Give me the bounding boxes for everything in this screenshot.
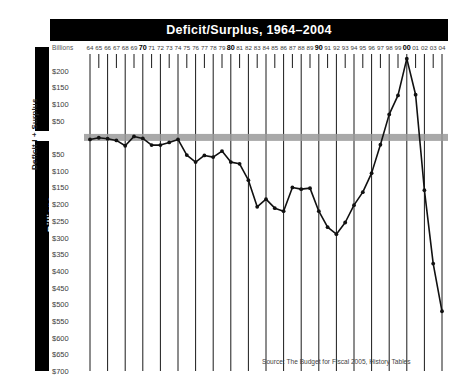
x-axis-tick-labels: 6465666768697071727374757677787980818283… <box>50 43 448 54</box>
y-tick-label-12: $400 <box>52 266 69 275</box>
y-tick-label-9: $250 <box>52 216 69 225</box>
x-tick-label-84: 84 <box>263 44 270 51</box>
x-tick-label-00: 00 <box>403 43 411 52</box>
data-point-93 <box>343 221 347 225</box>
x-tick-label-70: 70 <box>139 43 147 52</box>
data-point-91 <box>326 225 330 229</box>
data-point-77 <box>203 154 207 158</box>
chart-page: Deficit/Surplus, 1964–2004 Billions Defi… <box>0 0 467 387</box>
data-point-72 <box>159 143 163 147</box>
x-tick-label-66: 66 <box>104 44 111 51</box>
data-point-76 <box>194 160 198 164</box>
x-tick-label-99: 99 <box>395 44 402 51</box>
x-tick-label-02: 02 <box>421 44 428 51</box>
data-point-66 <box>106 137 110 141</box>
y-tick-label-13: $450 <box>52 283 69 292</box>
plot-area: Billions 6465666768697071727374757677787… <box>50 43 448 371</box>
x-tick-label-79: 79 <box>219 44 226 51</box>
data-point-90 <box>317 209 321 213</box>
y-tick-label-1: $150 <box>52 83 69 92</box>
x-tick-label-69: 69 <box>131 44 138 51</box>
data-point-04 <box>440 309 444 313</box>
y-tick-label-11: $350 <box>52 250 69 259</box>
gridlines <box>90 54 442 371</box>
y-tick-label-5: $50 <box>52 150 65 159</box>
y-tick-label-8: $200 <box>52 200 69 209</box>
data-point-84 <box>264 197 268 201</box>
x-tick-label-94: 94 <box>351 44 358 51</box>
x-tick-label-77: 77 <box>201 44 208 51</box>
x-tick-label-82: 82 <box>245 44 252 51</box>
data-point-95 <box>361 190 365 194</box>
data-point-97 <box>379 143 383 147</box>
x-tick-label-80: 80 <box>227 43 235 52</box>
x-tick-label-78: 78 <box>210 44 217 51</box>
data-point-01 <box>414 93 418 97</box>
data-point-80 <box>229 160 233 164</box>
x-tick-label-83: 83 <box>254 44 261 51</box>
x-tick-label-74: 74 <box>175 44 182 51</box>
data-point-68 <box>123 144 127 148</box>
y-tick-label-3: $50 <box>52 116 65 125</box>
data-point-65 <box>97 136 101 140</box>
data-point-64 <box>88 138 92 142</box>
x-tick-label-04: 04 <box>439 44 446 51</box>
data-point-85 <box>273 206 277 210</box>
x-tick-label-97: 97 <box>377 44 384 51</box>
data-point-03 <box>431 262 435 266</box>
data-point-69 <box>132 135 136 139</box>
data-point-92 <box>335 232 339 236</box>
y-axis-tick-labels: $200$150$100$50$50$100$150$200$250$300$3… <box>50 54 84 371</box>
data-point-99 <box>396 93 400 97</box>
y-tick-label-16: $600 <box>52 333 69 342</box>
x-tick-label-72: 72 <box>157 44 164 51</box>
y-tick-label-10: $300 <box>52 233 69 242</box>
x-tick-label-75: 75 <box>183 44 190 51</box>
x-tick-label-65: 65 <box>95 44 102 51</box>
data-point-94 <box>352 203 356 207</box>
x-tick-label-92: 92 <box>333 44 340 51</box>
chart-inner <box>84 54 448 371</box>
data-point-88 <box>299 187 303 191</box>
x-tick-label-73: 73 <box>166 44 173 51</box>
data-point-00 <box>405 57 409 61</box>
y-tick-label-18: $700 <box>52 367 69 376</box>
data-point-81 <box>238 162 242 166</box>
x-tick-label-81: 81 <box>236 44 243 51</box>
data-point-70 <box>141 137 145 141</box>
x-tick-label-03: 03 <box>430 44 437 51</box>
page-title: Deficit/Surplus, 1964–2004 <box>166 23 332 37</box>
data-point-89 <box>308 186 312 190</box>
x-tick-label-91: 91 <box>324 44 331 51</box>
x-tick-label-71: 71 <box>148 44 155 51</box>
data-point-02 <box>423 188 427 192</box>
data-point-83 <box>255 205 259 209</box>
chart-svg <box>84 54 448 371</box>
data-point-96 <box>370 171 374 175</box>
x-tick-label-88: 88 <box>298 44 305 51</box>
x-tick-label-90: 90 <box>315 43 323 52</box>
x-tick-label-76: 76 <box>192 44 199 51</box>
data-point-98 <box>387 112 391 116</box>
x-tick-label-87: 87 <box>289 44 296 51</box>
data-point-82 <box>247 178 251 182</box>
y-tick-label-0: $200 <box>52 66 69 75</box>
chart-title-bar: Deficit/Surplus, 1964–2004 <box>50 19 448 41</box>
x-tick-label-98: 98 <box>386 44 393 51</box>
x-tick-label-85: 85 <box>271 44 278 51</box>
y-tick-label-2: $100 <box>52 100 69 109</box>
y-tick-label-6: $100 <box>52 166 69 175</box>
data-point-67 <box>115 139 119 143</box>
source-note: Source: The Budget for Fiscal 2005, Hist… <box>262 358 411 365</box>
y-tick-label-17: $650 <box>52 350 69 359</box>
y-tick-label-15: $550 <box>52 316 69 325</box>
x-tick-label-68: 68 <box>122 44 129 51</box>
y-tick-label-7: $150 <box>52 183 69 192</box>
x-tick-label-93: 93 <box>342 44 349 51</box>
x-tick-label-01: 01 <box>412 44 419 51</box>
data-point-73 <box>167 141 171 145</box>
deficit-surplus-axis-title: Deficit I + Surplus <box>30 98 39 170</box>
y-tick-label-14: $500 <box>52 300 69 309</box>
x-tick-label-96: 96 <box>368 44 375 51</box>
x-tick-label-64: 64 <box>87 44 94 51</box>
